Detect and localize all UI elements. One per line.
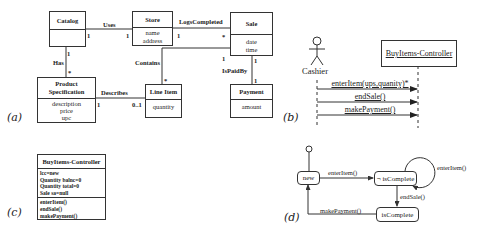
attribute: description <box>38 100 95 107</box>
mult-uses-to: 1 <box>126 32 129 39</box>
class-store[interactable]: Store name address <box>132 11 173 46</box>
class-name: Store <box>133 12 172 28</box>
attribute: quantity <box>146 103 181 111</box>
panel-label-c: (c) <box>7 206 22 219</box>
assoc-label-logscompleted: LogsCompleted <box>179 18 223 26</box>
class-name: Product Specification <box>38 78 95 99</box>
class-catalog[interactable]: Catalog <box>49 11 86 47</box>
operation: enterItem() <box>40 199 103 206</box>
attribute: address <box>133 37 172 45</box>
assoc-label-has: Has <box>53 59 64 67</box>
class-buyitems-controller[interactable]: BuyItems-Controller lcc=new Quantity bal… <box>37 154 106 220</box>
class-attributes: name address <box>133 28 172 44</box>
class-attributes: description price upc <box>38 99 95 121</box>
class-product-specification[interactable]: Product Specification description price … <box>37 77 96 123</box>
message-enteritem: enterItem(ups,quanity)* <box>327 79 413 88</box>
state-not-complete[interactable]: ¬ isComplete <box>374 171 417 186</box>
class-attributes: quantity <box>146 100 181 111</box>
assoc-label-uses: Uses <box>103 21 116 29</box>
attribute: date <box>231 38 272 46</box>
attribute: Sale sa=null <box>40 190 103 197</box>
mult-logs-to: * <box>222 33 225 40</box>
state-complete[interactable]: isComplete <box>376 207 419 222</box>
mult-has-from: 1 <box>67 50 70 57</box>
class-operations: enterItem() endSale() makePayment() <box>38 197 105 220</box>
class-name: Catalog <box>50 12 85 30</box>
class-attributes: date time <box>231 35 272 53</box>
initial-state-icon <box>306 146 312 152</box>
panel-label-d: (d) <box>284 211 300 224</box>
assoc-label-ispaidby: IsPaidBy <box>222 67 247 75</box>
class-payment[interactable]: Payment amount <box>230 84 273 118</box>
mult-contains-to: * <box>164 77 167 84</box>
panel-label-b: (b) <box>283 111 299 124</box>
mult-has-to: * <box>68 69 71 76</box>
attribute: time <box>231 46 272 54</box>
transition-label-enteritem-loop: enterItem() <box>437 164 466 171</box>
class-name: Payment <box>231 85 272 100</box>
actor-label: Cashier <box>302 66 328 76</box>
mult-paid-from: 1 <box>254 57 257 64</box>
transition-label-makepayment: makePayment() <box>320 207 361 214</box>
class-name: BuyItems-Controller <box>38 155 105 169</box>
attribute: lcc=new <box>40 170 103 177</box>
mult-paid-to: 1 <box>254 77 257 84</box>
mult-describes-from: 1 <box>97 101 100 108</box>
class-name-line: Product <box>55 80 77 88</box>
attribute: upc <box>38 114 95 121</box>
class-attributes: amount <box>231 100 272 111</box>
attribute: price <box>38 107 95 114</box>
message-makepayment: makePayment() <box>327 105 413 114</box>
mult-describes-to: 0..1 <box>132 101 142 108</box>
mult-contains-from: 1 <box>222 55 225 62</box>
assoc-label-contains: Contains <box>135 59 160 67</box>
operation: endSale() <box>40 206 103 213</box>
transition-label-enteritem: enterItem() <box>328 169 357 176</box>
class-attributes: lcc=new Quantity balnc=0 Quantity total=… <box>38 169 105 197</box>
attribute: Quantity total=0 <box>40 183 103 190</box>
state-new[interactable]: new <box>297 171 320 185</box>
mult-uses-from: 1 <box>87 32 90 39</box>
assoc-label-describes: Describes <box>101 89 128 97</box>
class-name: Sale <box>231 13 272 35</box>
object-buyitems-controller[interactable]: BuyItems-Controller <box>381 40 457 67</box>
class-sale[interactable]: Sale date time <box>230 12 273 56</box>
operation: makePayment() <box>40 213 103 220</box>
class-line-item[interactable]: Line Item quantity <box>145 84 182 118</box>
panel-label-a: (a) <box>7 111 22 124</box>
class-name-line: Specification <box>49 88 85 96</box>
actor-icon <box>309 37 325 65</box>
mult-logs-from: 1 <box>177 32 180 39</box>
attribute: Quantity balnc=0 <box>40 177 103 184</box>
transition-label-endsale: endSale() <box>400 193 425 200</box>
attribute: amount <box>231 103 272 111</box>
message-endsale: endSale() <box>327 92 413 101</box>
class-name: Line Item <box>146 85 181 100</box>
attribute: name <box>133 29 172 37</box>
